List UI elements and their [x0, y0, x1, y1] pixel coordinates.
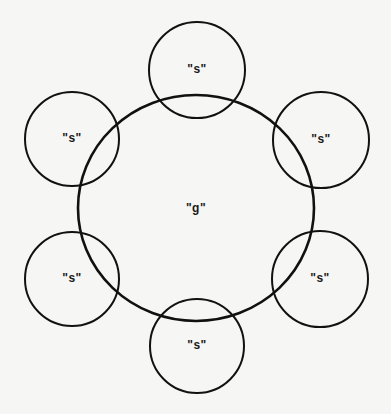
satellite-label-bottom: "s" — [187, 338, 207, 352]
satellite-label-top: "s" — [187, 62, 207, 76]
circle-diagram: "g" "s" "s" "s" "s" "s" "s" — [0, 0, 391, 414]
satellite-label-upper-left: "s" — [62, 131, 82, 145]
satellite-label-upper-right: "s" — [311, 132, 331, 146]
satellite-label-lower-left: "s" — [62, 271, 82, 285]
satellite-label-lower-right: "s" — [310, 271, 330, 285]
central-label: "g" — [186, 201, 206, 215]
